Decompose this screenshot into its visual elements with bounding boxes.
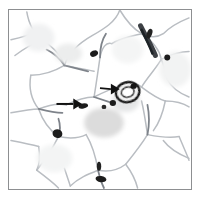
nucleus-cluster-a — [110, 100, 116, 106]
nucleus-top-right — [164, 55, 170, 61]
micrograph-frame — [8, 9, 192, 190]
micrograph-image — [9, 10, 191, 189]
figure-root — [0, 0, 200, 205]
dense-cytoplasm-cell — [84, 108, 124, 138]
nucleus-bottom-mid — [97, 162, 101, 171]
nucleus-cluster-b — [102, 105, 107, 109]
